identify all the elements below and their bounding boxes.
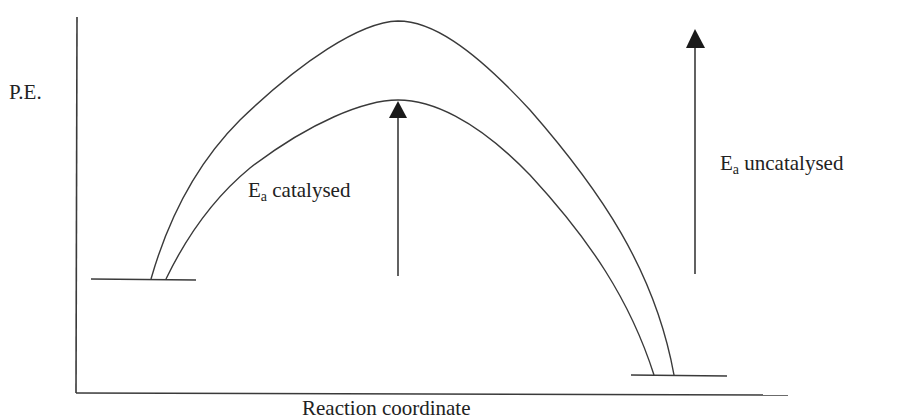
reactants-level (91, 279, 196, 280)
uncatalysed-curve (151, 21, 674, 375)
catalysed-label: Ea catalysed (248, 180, 350, 204)
catalysed-curve (166, 100, 654, 375)
catalysed-text: catalysed (272, 178, 350, 202)
catalysed-arrowhead-icon (389, 101, 407, 118)
y-axis-label: P.E. (9, 82, 42, 103)
x-axis-label: Reaction coordinate (302, 398, 471, 419)
catalysed-subscript: a (261, 189, 267, 204)
uncatalysed-label: Ea uncatalysed (720, 153, 843, 177)
uncatalysed-text: uncatalysed (744, 151, 843, 175)
products-level (631, 375, 727, 376)
x-axis (76, 393, 788, 395)
uncatalysed-symbol: E (720, 151, 733, 175)
uncatalysed-subscript: a (733, 162, 739, 177)
catalysed-symbol: E (248, 178, 261, 202)
y-axis (76, 17, 77, 393)
uncatalysed-arrowhead-icon (686, 29, 705, 48)
